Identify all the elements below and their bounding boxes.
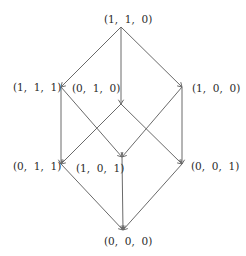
edge-n100-n101	[122, 87, 182, 157]
node-label-110: (1, 1, 0)	[104, 13, 152, 25]
node-label-000: (0, 0, 0)	[104, 235, 152, 247]
edge-n111-n101	[61, 87, 122, 157]
edge-n111-n011	[58, 87, 63, 164]
node-label-011: (0, 1, 1)	[13, 160, 61, 172]
lattice-diagram: (1, 1, 0) (1, 1, 1) (0, 1, 0) (1, 0, 0) …	[0, 0, 246, 256]
edge-n100-n001	[179, 87, 184, 164]
edge-n010-n001	[121, 104, 182, 164]
edge-n010-n011	[61, 104, 121, 164]
node-label-001: (0, 0, 1)	[191, 160, 239, 172]
edge-n110-n100	[121, 27, 182, 87]
edge-layer	[0, 0, 246, 256]
edge-n001-n000	[123, 164, 182, 230]
node-label-010: (0, 1, 0)	[72, 82, 120, 94]
edge-n110-n111	[61, 27, 121, 87]
node-label-101: (1, 0, 1)	[76, 162, 124, 174]
node-label-100: (1, 0, 0)	[192, 82, 240, 94]
node-label-111: (1, 1, 1)	[13, 81, 61, 93]
